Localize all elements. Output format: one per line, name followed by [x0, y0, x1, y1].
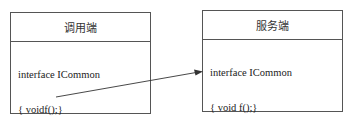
- arrow-line: [56, 73, 196, 98]
- arrowhead-icon: [194, 70, 203, 76]
- call-arrow: [0, 0, 349, 120]
